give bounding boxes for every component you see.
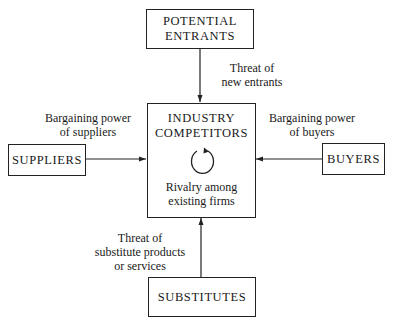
buyers-label: BUYERS (327, 152, 380, 167)
substitutes-threat-line2: substitute products (90, 245, 190, 259)
substitutes-threat-line1: Threat of (90, 231, 190, 245)
buyers-power-label: Bargaining power of buyers (262, 111, 362, 139)
suppliers-power-label: Bargaining power of suppliers (38, 111, 138, 139)
substitutes-threat-label: Threat of substitute products or service… (90, 231, 190, 273)
potential-entrants-box: POTENTIAL ENTRANTS (146, 9, 254, 49)
potential-entrants-line1: POTENTIAL (163, 14, 237, 29)
industry-competitors-line1: INDUSTRY (168, 111, 235, 126)
suppliers-box: SUPPLIERS (8, 144, 86, 176)
industry-competitors-line2: COMPETITORS (155, 126, 248, 141)
suppliers-label: SUPPLIERS (12, 153, 82, 168)
buyers-power-line2: of buyers (262, 125, 362, 139)
buyers-power-line1: Bargaining power (262, 111, 362, 125)
substitutes-label: SUBSTITUTES (158, 290, 247, 305)
rivalry-line2: existing firms (168, 194, 234, 208)
suppliers-power-line2: of suppliers (38, 125, 138, 139)
new-entrants-line1: Threat of (212, 61, 292, 75)
new-entrants-label: Threat of new entrants (212, 61, 292, 89)
substitutes-threat-line3: or services (90, 259, 190, 273)
buyers-box: BUYERS (322, 143, 385, 175)
substitutes-box: SUBSTITUTES (148, 277, 256, 317)
industry-competitors-box: INDUSTRY COMPETITORS Rivalry among exist… (147, 103, 256, 218)
new-entrants-line2: new entrants (212, 75, 292, 89)
rivalry-line1: Rivalry among (166, 180, 238, 194)
circular-arrow-icon (187, 145, 217, 177)
suppliers-power-line1: Bargaining power (38, 111, 138, 125)
potential-entrants-line2: ENTRANTS (165, 29, 235, 44)
